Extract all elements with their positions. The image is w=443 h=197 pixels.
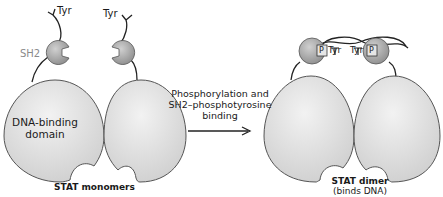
sh2-domain-2 bbox=[112, 41, 135, 65]
reaction-arrow bbox=[188, 127, 250, 135]
tyr-label-right: Tyr bbox=[350, 45, 363, 56]
dimer-domain-right bbox=[354, 76, 440, 182]
dimer-linker-left bbox=[291, 62, 300, 80]
stat-monomer-1 bbox=[4, 9, 104, 182]
sh2-domain-1 bbox=[46, 41, 69, 65]
tyr-fork-2 bbox=[122, 15, 132, 20]
tyr-label-left: Tyr bbox=[328, 45, 341, 56]
phospho-label-right: P bbox=[369, 45, 374, 56]
phospho-label-left: P bbox=[319, 45, 324, 56]
stat-dimerization-diagram: Tyr Tyr SH2 DNA-binding domain STAT mono… bbox=[0, 0, 443, 197]
stat-monomers-caption: STAT monomers bbox=[54, 182, 135, 193]
linker-1 bbox=[32, 57, 48, 82]
arrow-label: Phosphorylation and SH2–phosphotyrosine … bbox=[166, 88, 274, 121]
dna-binding-domain-label: DNA-binding domain bbox=[10, 116, 80, 140]
linker-2 bbox=[131, 60, 137, 80]
dimer-domain-left bbox=[264, 76, 354, 182]
tyr-fork-1 bbox=[48, 9, 55, 15]
tyr-label-2: Tyr bbox=[103, 8, 118, 19]
tyr-tail-1 bbox=[53, 15, 61, 43]
tyr-label-1: Tyr bbox=[57, 5, 72, 16]
sh2-label: SH2 bbox=[20, 48, 40, 59]
stat-dimer bbox=[264, 37, 440, 182]
stat-dimer-caption: STAT dimer (binds DNA) bbox=[315, 176, 405, 196]
